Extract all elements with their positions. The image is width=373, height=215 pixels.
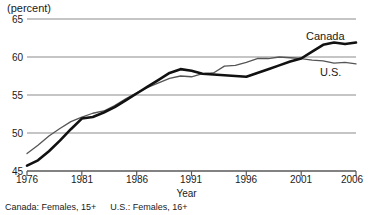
chart-footnote: Canada: Females, 15+U.S.: Females, 16+ — [5, 202, 188, 212]
footnote-canada: Canada: Females, 15+ — [5, 202, 96, 212]
footnote-us: U.S.: Females, 16+ — [110, 202, 187, 212]
x-tick-2001: 2001 — [281, 175, 321, 185]
series-line-canada — [27, 43, 356, 166]
x-tick-1976: 1976 — [7, 175, 47, 185]
series-label-us: U.S. — [320, 66, 341, 78]
series-label-canada: Canada — [306, 30, 345, 42]
x-tick-1986: 1986 — [117, 175, 157, 185]
chart-container: (percent) 65 60 55 50 45 1976 — [0, 0, 373, 215]
x-tick-1981: 1981 — [62, 175, 102, 185]
x-tick-2006: 2006 — [332, 175, 372, 185]
x-tick-1996: 1996 — [226, 175, 266, 185]
x-tick-1991: 1991 — [171, 175, 211, 185]
x-axis-title: Year — [0, 188, 373, 199]
